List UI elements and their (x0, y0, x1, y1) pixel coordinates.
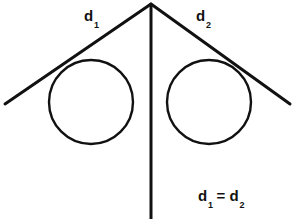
right-circle (167, 60, 251, 144)
diagram-canvas (0, 0, 294, 219)
equation-operator: = (213, 187, 230, 204)
left-distance-base: d (84, 7, 93, 24)
equation-right-base: d (230, 187, 239, 204)
left-circle (49, 60, 133, 144)
left-distance-subscript: 1 (94, 20, 99, 30)
left-distance-label: d1 (84, 8, 99, 27)
right-distance-base: d (196, 7, 205, 24)
right-distance-label: d2 (196, 8, 211, 27)
right-tangent-line (151, 4, 290, 104)
left-tangent-line (5, 4, 151, 104)
equality-statement: d1=d2 (198, 188, 244, 207)
geometry-diagram: d1 d2 d1=d2 (0, 0, 294, 219)
equation-right-subscript: 2 (239, 200, 244, 210)
equation-left-base: d (198, 187, 207, 204)
right-distance-subscript: 2 (206, 20, 211, 30)
equation-left-subscript: 1 (208, 200, 213, 210)
